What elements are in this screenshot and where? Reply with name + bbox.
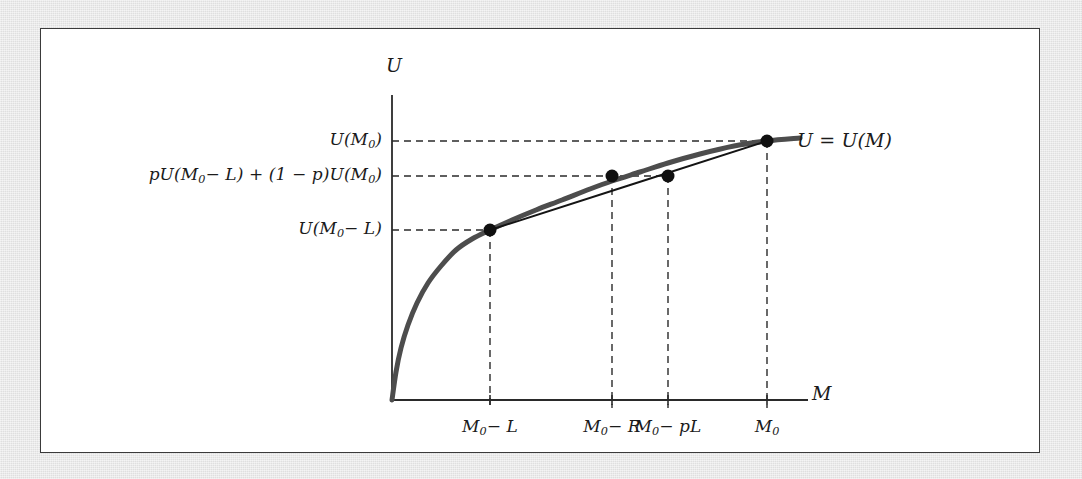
x-axis-name: M	[812, 384, 832, 403]
x-tick-label-m0-minus-r: M0− R	[583, 418, 640, 437]
data-series-layer	[392, 138, 800, 400]
y-tick-label-u-m0: U(M0)	[329, 131, 382, 150]
x-tick-label-m0: M0	[755, 418, 780, 437]
data-point-pt-m0	[761, 135, 774, 148]
data-point-pt-m0-minus-r	[606, 170, 619, 183]
curve-label: U = U(M)	[797, 131, 892, 150]
data-point-pt-m0-minus-l	[484, 224, 497, 237]
y-axis-name: U	[386, 56, 402, 75]
y-tick-label-u-m0-minus-l: U(M0− L)	[298, 220, 382, 239]
guide-lines-layer	[392, 141, 767, 408]
utility-curve-plot	[0, 0, 1082, 479]
series-utility-curve	[392, 138, 800, 400]
x-tick-label-m0-minus-l: M0− L	[462, 418, 518, 437]
data-point-pt-m0-minus-pl	[662, 170, 675, 183]
y-tick-label-expected-utility: pU(M0− L) + (1 − p)U(M0)	[149, 166, 382, 185]
series-expected-utility-chord	[490, 141, 767, 230]
figure-plate: U(M0) pU(M0− L) + (1 − p)U(M0) U(M0− L) …	[0, 0, 1082, 479]
x-tick-label-m0-minus-pl: M0− pL	[635, 418, 702, 437]
